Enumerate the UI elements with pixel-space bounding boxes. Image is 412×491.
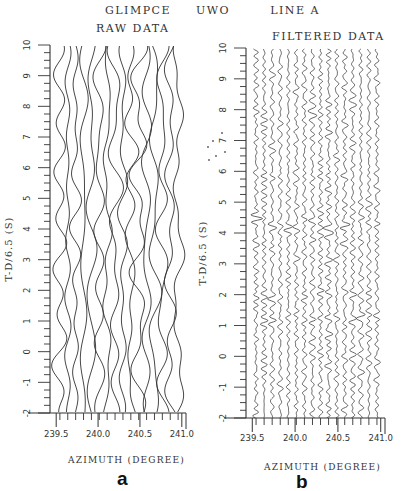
y-tick-label: 7 bbox=[22, 134, 32, 139]
seismic-trace bbox=[293, 49, 300, 418]
seismic-trace bbox=[155, 46, 169, 412]
x-tick-label: 240.5 bbox=[326, 433, 350, 443]
seismic-trace bbox=[277, 49, 283, 418]
y-tick-label: 5 bbox=[218, 199, 228, 204]
x-tick-label: 239.5 bbox=[44, 429, 68, 439]
y-tick-label: 4 bbox=[218, 230, 228, 235]
y-tick-label: 10 bbox=[218, 43, 228, 54]
y-tick-label: -1 bbox=[218, 383, 228, 391]
seismic-trace bbox=[356, 49, 365, 418]
y-tick-label: 1 bbox=[22, 318, 32, 323]
y-tick-label: 8 bbox=[218, 107, 228, 112]
seismic-trace bbox=[308, 49, 317, 418]
x-tick-label: 239.5 bbox=[240, 433, 264, 443]
x-tick-label: 241.0 bbox=[369, 433, 393, 443]
y-tick-label: 8 bbox=[22, 104, 32, 109]
y-tick-label: 0 bbox=[22, 349, 32, 354]
y-tick-label: 3 bbox=[22, 257, 32, 262]
scan-speck bbox=[215, 155, 217, 157]
seismic-trace bbox=[373, 49, 380, 418]
y-tick-label: 10 bbox=[22, 40, 32, 51]
seismic-trace bbox=[260, 49, 267, 418]
panel-a-letter: a bbox=[117, 468, 128, 490]
y-tick-label: 9 bbox=[22, 73, 32, 78]
seismic-trace bbox=[268, 49, 277, 418]
y-tick-label: 5 bbox=[22, 196, 32, 201]
seismic-trace bbox=[80, 46, 88, 412]
seismic-trace bbox=[164, 46, 176, 412]
seismic-trace bbox=[142, 46, 152, 412]
seismic-trace bbox=[301, 49, 307, 418]
seismic-trace bbox=[251, 49, 263, 418]
y-tick-label: 2 bbox=[218, 292, 228, 297]
x-tick-label: 240.5 bbox=[128, 429, 152, 439]
seismic-trace bbox=[129, 46, 148, 412]
y-tick-label: 0 bbox=[218, 354, 228, 359]
y-tick-label: 2 bbox=[22, 288, 32, 293]
seismic-trace bbox=[317, 49, 324, 418]
y-tick-label: 4 bbox=[22, 226, 32, 231]
seismic-trace bbox=[284, 49, 293, 418]
seismic-trace bbox=[333, 49, 339, 418]
seismic-figure: -2-1012345678910T-D/6.5 (S)239.5240.0240… bbox=[0, 0, 412, 491]
scan-speck bbox=[208, 159, 210, 161]
scan-speck bbox=[221, 132, 223, 134]
y-tick-label: 6 bbox=[22, 165, 32, 170]
scan-speck bbox=[224, 151, 226, 153]
scan-speck bbox=[212, 140, 214, 142]
scan-speck bbox=[207, 146, 209, 148]
y-tick-label: 6 bbox=[218, 169, 228, 174]
y-tick-label: 9 bbox=[218, 76, 228, 81]
y-tick-label: 3 bbox=[218, 261, 228, 266]
seismic-trace bbox=[65, 46, 71, 412]
y-tick-label: 1 bbox=[218, 323, 228, 328]
x-tick-label: 240.0 bbox=[86, 429, 110, 439]
x-tick-label: 241.0 bbox=[170, 429, 194, 439]
panel-b-letter: b bbox=[296, 471, 308, 491]
y-axis-label: T-D/6.5 (S) bbox=[3, 217, 14, 282]
panel-a-xlabel: AZIMUTH (DEGREE) bbox=[68, 455, 185, 465]
seismic-trace bbox=[69, 46, 81, 412]
seismic-trace bbox=[173, 46, 185, 412]
y-tick-label: 7 bbox=[218, 138, 228, 143]
seismic-trace bbox=[366, 49, 373, 418]
y-axis-label: T-D/6.5 (S) bbox=[197, 221, 208, 286]
panel-a: -2-1012345678910T-D/6.5 (S)239.5240.0240… bbox=[3, 40, 194, 439]
y-tick-label: -1 bbox=[22, 378, 32, 386]
panel-b-xlabel: AZIMUTH (DEGREE) bbox=[264, 462, 381, 472]
panel-b: -2-1012345678910T-D/6.5 (S)239.5240.0240… bbox=[197, 43, 393, 443]
seismic-trace bbox=[125, 46, 139, 412]
x-tick-label: 240.0 bbox=[283, 433, 307, 443]
seismic-trace bbox=[323, 49, 333, 418]
seismic-trace bbox=[349, 49, 357, 418]
seismic-trace bbox=[340, 49, 350, 418]
